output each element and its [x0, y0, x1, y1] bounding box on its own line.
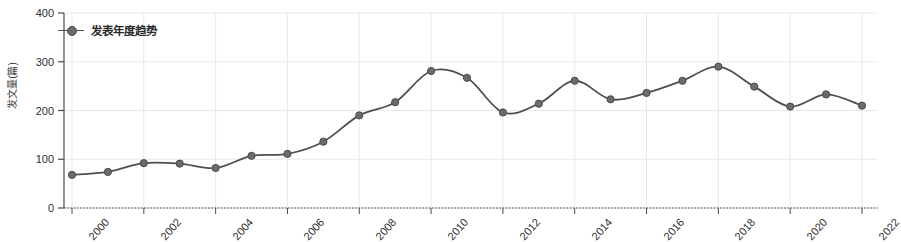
data-point: [643, 89, 650, 96]
data-point: [356, 112, 363, 119]
data-point: [212, 164, 219, 171]
legend-marker-icon: [58, 25, 84, 35]
data-point: [607, 96, 614, 103]
data-point: [571, 77, 578, 84]
data-point: [248, 152, 255, 159]
data-point: [427, 67, 434, 74]
data-point: [499, 109, 506, 116]
data-point: [787, 103, 794, 110]
legend-label: 发表年度趋势: [91, 22, 157, 38]
data-point: [284, 150, 291, 157]
data-point: [176, 160, 183, 167]
data-point: [140, 160, 147, 167]
data-point: [858, 102, 865, 109]
data-point: [535, 100, 542, 107]
data-point: [392, 99, 399, 106]
data-point: [320, 138, 327, 145]
data-point: [715, 63, 722, 70]
data-point: [463, 74, 470, 81]
data-point: [679, 77, 686, 84]
chart-legend: 发表年度趋势: [58, 21, 157, 39]
data-point: [751, 83, 758, 90]
data-point: [822, 91, 829, 98]
data-point: [68, 171, 75, 178]
data-point: [104, 168, 111, 175]
